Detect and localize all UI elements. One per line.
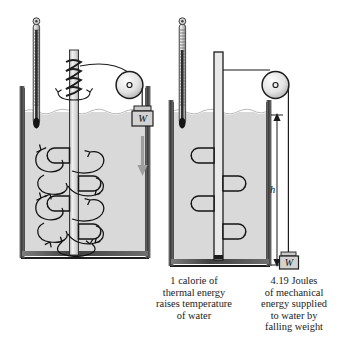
right-thermometer: [179, 18, 186, 129]
height-dimension-h: h: [270, 113, 283, 267]
caption-thermal-energy: 1 calorie of thermal energy raises tempe…: [138, 275, 250, 321]
caption-mechanical-energy: 4.19 Joules of mechanical energy supplie…: [248, 275, 340, 333]
joule-apparatus-figure: W: [0, 0, 340, 340]
right-paddle-shaft: [214, 52, 223, 260]
pulley-right: [262, 72, 289, 99]
right-apparatus: h W: [169, 18, 299, 269]
cord-to-pulley-left: [80, 64, 128, 72]
left-apparatus: W: [20, 18, 154, 258]
pulley-left: [116, 72, 143, 99]
height-label: h: [270, 184, 275, 195]
weight-left: W: [132, 106, 153, 126]
shaft-foot: [214, 255, 223, 259]
left-thermometer: [33, 18, 40, 129]
weight-left-label: W: [138, 113, 148, 124]
left-paddle-shaft: [70, 50, 79, 255]
weight-right: W: [280, 252, 299, 269]
